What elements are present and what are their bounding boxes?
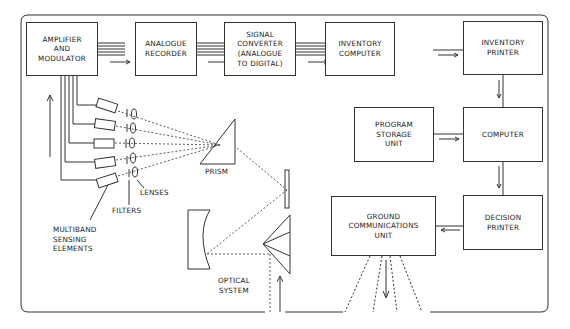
ground-comm-label: GROUND COMMUNICATIONS UNIT (348, 212, 418, 241)
recorder-label: ANALOGUE RECORDER (145, 39, 187, 58)
signal-converter-box: SIGNAL CONVERTER (ANALOGUE TO DIGITAL) (224, 22, 296, 76)
prism-shape (200, 119, 235, 164)
computer-box: COMPUTER (463, 107, 543, 162)
analogue-recorder-box: ANALOGUE RECORDER (135, 22, 197, 76)
amplifier-label: AMPLIFIER AND MODULATOR (38, 35, 86, 64)
converter-label: SIGNAL CONVERTER (ANALOGUE TO DIGITAL) (237, 30, 283, 68)
amplifier-modulator-box: AMPLIFIER AND MODULATOR (26, 22, 98, 76)
bus-recorder-converter (195, 43, 225, 55)
decision-printer-label: DECISION PRINTER (485, 213, 522, 232)
optical-system-label: OPTICAL SYSTEM (218, 276, 250, 295)
inv-computer-label: INVENTORY COMPUTER (338, 39, 381, 58)
computer-label: COMPUTER (482, 130, 524, 140)
inventory-computer-box: INVENTORY COMPUTER (325, 22, 395, 76)
prism-label: PRISM (205, 167, 228, 177)
bus-converter-invcomputer (296, 43, 325, 55)
inv-printer-label: INVENTORY PRINTER (481, 38, 524, 57)
lenses-label: LENSES (140, 188, 169, 198)
filters-label: FILTERS (112, 206, 141, 216)
program-storage-label: PROGRAM STORAGE UNIT (375, 120, 413, 149)
bus-amp-recorder (98, 43, 125, 55)
decision-printer-box: DECISION PRINTER (463, 195, 543, 250)
inventory-printer-box: INVENTORY PRINTER (463, 21, 543, 75)
sensing-elements-label: MULTIBAND SENSING ELEMENTS (53, 225, 97, 254)
program-storage-box: PROGRAM STORAGE UNIT (354, 107, 434, 162)
ground-comm-box: GROUND COMMUNICATIONS UNIT (331, 196, 436, 256)
